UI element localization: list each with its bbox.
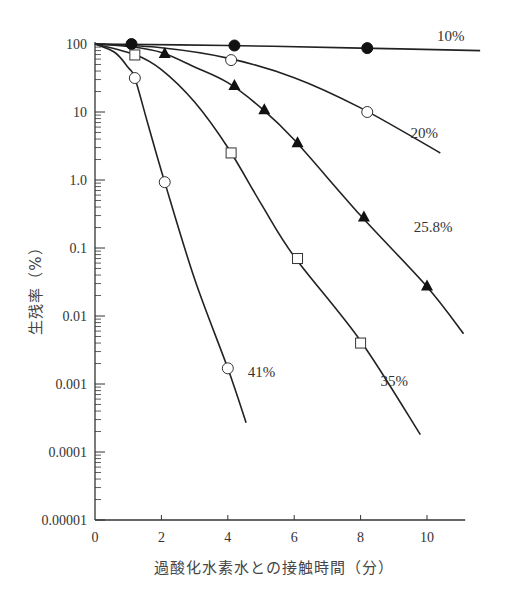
open-circle-marker	[129, 73, 140, 84]
series-label-10%: 10%	[437, 28, 465, 44]
filled-circle-marker	[229, 40, 240, 51]
series-label-20%: 20%	[410, 125, 438, 141]
filled-triangle-marker	[258, 103, 270, 114]
y-tick-label: 0.00001	[42, 513, 88, 528]
open-square-marker	[293, 254, 303, 264]
open-circle-marker	[362, 107, 373, 118]
y-tick-label: 10	[73, 105, 87, 120]
filled-circle-marker	[362, 43, 373, 54]
filled-triangle-marker	[358, 211, 370, 222]
survival-rate-chart: 100101.00.10.010.0010.00010.000010246810…	[0, 0, 512, 595]
open-circle-marker	[222, 363, 233, 374]
curves	[95, 44, 480, 435]
series-label-25.8%: 25.8%	[414, 219, 453, 235]
y-tick-label: 1.0	[70, 173, 88, 188]
series-label-35%: 35%	[381, 373, 409, 389]
y-tick-label: 0.001	[56, 377, 88, 392]
open-square-marker	[356, 338, 366, 348]
x-tick-label: 8	[357, 530, 364, 545]
open-square-marker	[130, 50, 140, 60]
open-circle-marker	[159, 177, 170, 188]
open-circle-marker	[226, 55, 237, 66]
y-axis-title: 生残率（%）	[24, 239, 45, 334]
y-tick-label: 100	[66, 37, 87, 52]
x-tick-label: 4	[224, 530, 231, 545]
x-axis-title: 過酸化水素水との接触時間（分）	[0, 556, 512, 577]
filled-circle-marker	[126, 39, 137, 50]
x-tick-label: 2	[158, 530, 165, 545]
y-tick-label: 0.01	[63, 309, 88, 324]
y-tick-label: 0.1	[70, 241, 88, 256]
x-tick-label: 6	[291, 530, 298, 545]
series-label-41%: 41%	[248, 364, 276, 380]
series-curve-25.8%	[95, 44, 464, 334]
open-square-marker	[226, 148, 236, 158]
y-tick-label: 0.0001	[49, 445, 88, 460]
axes: 100101.00.10.010.0010.00010.000010246810	[42, 37, 466, 545]
x-tick-label: 10	[420, 530, 434, 545]
x-tick-label: 0	[92, 530, 99, 545]
